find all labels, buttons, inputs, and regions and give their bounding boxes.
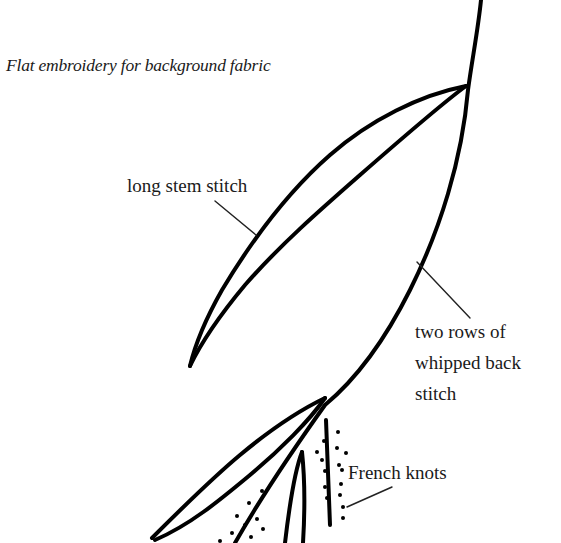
whipped-line-2: whipped back bbox=[415, 347, 561, 378]
lower-leaf-inner bbox=[155, 398, 325, 540]
right-vertical-blade bbox=[326, 420, 330, 525]
whipped-back-leader bbox=[417, 262, 470, 318]
french-knots-leader bbox=[347, 487, 392, 507]
embroidery-diagram bbox=[0, 0, 561, 543]
whipped-line-3: stitch bbox=[415, 378, 561, 409]
stem-stitch-leader bbox=[215, 201, 256, 235]
diagram-title: Flat embroidery for background fabric bbox=[6, 57, 270, 75]
middle-blade-left bbox=[285, 452, 302, 543]
whipped-line-1: two rows of bbox=[415, 316, 561, 347]
french-knots-label: French knots bbox=[348, 463, 447, 482]
whipped-back-stitch-label: two rows of whipped back stitch bbox=[415, 316, 561, 409]
stem-stitch-label: long stem stitch bbox=[127, 176, 247, 195]
middle-blade-right bbox=[302, 452, 304, 543]
